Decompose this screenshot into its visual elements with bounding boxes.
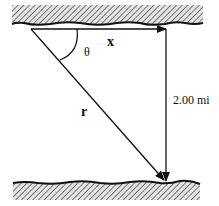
- bottom-riverbank: [13, 181, 200, 200]
- distance-label: 2.00 mi: [173, 93, 210, 107]
- angle-label: θ: [84, 45, 90, 59]
- r-vector-arrow: [31, 29, 164, 180]
- r-vector-label: r: [81, 104, 87, 119]
- x-vector-label: x: [107, 34, 114, 49]
- angle-arc: [60, 29, 77, 60]
- top-riverbank: [12, 5, 203, 25]
- river-crossing-diagram: x θ r 2.00 mi: [0, 0, 219, 206]
